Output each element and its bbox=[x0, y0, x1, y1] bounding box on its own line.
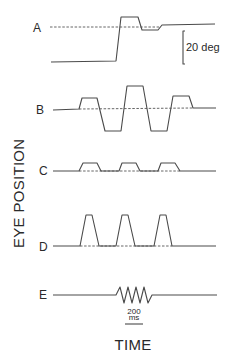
baseline-b bbox=[79, 108, 193, 109]
x-axis-label: TIME bbox=[114, 336, 151, 353]
trace-row-c: C bbox=[39, 163, 216, 178]
trace-d bbox=[53, 215, 216, 246]
y-axis-label: EYE POSITION bbox=[10, 139, 27, 248]
row-label-b: B bbox=[36, 103, 44, 117]
eye-position-diagram: EYE POSITION A 20 deg B C D E 200 ms bbox=[0, 0, 231, 358]
scale-bracket bbox=[183, 31, 185, 64]
trace-row-d: D bbox=[39, 215, 216, 254]
row-label-e: E bbox=[39, 288, 47, 302]
row-label-c: C bbox=[39, 164, 48, 178]
row-label-a: A bbox=[33, 21, 41, 35]
time-scale-bar: 200 ms bbox=[125, 307, 143, 324]
trace-a bbox=[51, 17, 215, 62]
row-label-d: D bbox=[39, 240, 48, 254]
time-scale-unit: ms bbox=[129, 313, 140, 322]
trace-row-b: B bbox=[36, 86, 216, 131]
trace-c bbox=[53, 163, 216, 171]
amplitude-scale-label: 20 deg bbox=[186, 41, 220, 53]
amplitude-scale-bar: 20 deg bbox=[183, 31, 220, 64]
trace-e bbox=[53, 287, 217, 303]
trace-row-e: E bbox=[39, 287, 217, 303]
trace-row-a: A bbox=[33, 17, 215, 62]
